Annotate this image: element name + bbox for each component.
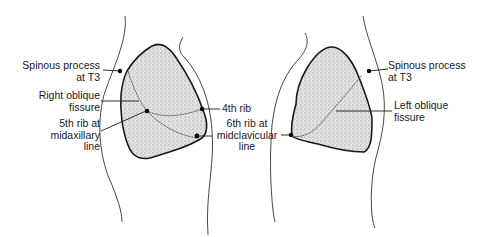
left-lung: [291, 47, 372, 152]
left-lateral-view: [271, 16, 393, 228]
marker-fourth-rib: [200, 107, 204, 111]
marker-spinous-right: [118, 69, 122, 73]
label-fifth-rib-midaxillary: 5th rib at midaxillary line: [50, 118, 100, 153]
leader-spinous-right: [103, 70, 120, 71]
marker-sixth-rib: [195, 134, 200, 139]
right-lung: [121, 44, 207, 158]
marker-spinous-left: [367, 69, 371, 73]
label-right-oblique-fissure: Right oblique fissure: [39, 90, 100, 113]
label-sixth-rib-midclavicular: 6th rib at midclavicular line: [211, 118, 283, 153]
marker-fifth-rib: [145, 109, 149, 113]
label-spinous-process-left: Spinous process at T3: [388, 60, 466, 83]
label-fourth-rib: 4th rib: [222, 103, 251, 115]
marker-sixth-rib-left: [289, 133, 293, 137]
label-left-oblique-fissure: Left oblique fissure: [394, 100, 448, 123]
right-lateral-view: [100, 16, 220, 235]
label-spinous-process-right: Spinous process at T3: [22, 60, 100, 83]
